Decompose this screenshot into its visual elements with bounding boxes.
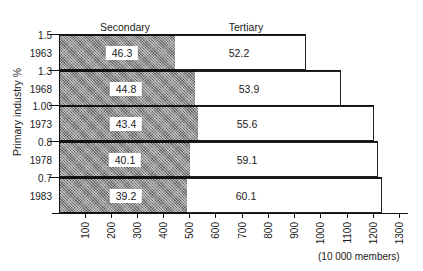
- tertiary-value-label: 53.9: [239, 83, 259, 95]
- row-boundary-line: [49, 34, 306, 35]
- secondary-segment: 40.1: [59, 142, 191, 177]
- x-tick-label: 1200: [368, 222, 379, 244]
- x-tick: [111, 213, 112, 218]
- year-label: 1968: [30, 84, 52, 95]
- x-tick-label: 1100: [342, 222, 353, 244]
- bar-row-1978: 40.1 59.1: [59, 142, 378, 177]
- x-tick: [163, 213, 164, 218]
- secondary-value-label: 43.4: [110, 117, 142, 131]
- x-tick-label: 200: [106, 222, 117, 239]
- x-tick-label: 500: [184, 222, 195, 239]
- x-tick-label: 800: [263, 222, 274, 239]
- secondary-value-label: 46.3: [106, 46, 138, 60]
- year-label: 1963: [30, 48, 52, 59]
- year-label: 1973: [30, 119, 52, 130]
- secondary-column-title: Secondary: [100, 21, 150, 33]
- tertiary-value-label: 59.1: [237, 154, 257, 166]
- row-boundary-line: [49, 105, 374, 106]
- year-label: 1983: [30, 191, 52, 202]
- secondary-value-label: 40.1: [109, 153, 141, 167]
- row-boundary-line: [49, 177, 382, 178]
- x-tick-label: 1300: [394, 222, 405, 244]
- x-tick: [399, 213, 400, 218]
- x-tick: [268, 213, 269, 218]
- tertiary-value-label: 60.1: [236, 190, 256, 202]
- primary-pct-label: 0.8: [38, 137, 52, 148]
- bar-row-1968: 44.8 53.9: [59, 71, 341, 106]
- bar-row-1983: 39.2 60.1: [59, 178, 382, 213]
- x-tick-label: 100: [80, 222, 91, 239]
- x-tick-label: 600: [210, 222, 221, 239]
- x-tick-label: 900: [289, 222, 300, 239]
- primary-pct-label: 1.5: [38, 30, 52, 41]
- secondary-segment: 39.2: [59, 178, 188, 213]
- bar-row-1973: 43.4 55.6: [59, 106, 374, 141]
- year-label: 1978: [30, 155, 52, 166]
- tertiary-value-label: 52.2: [229, 47, 249, 59]
- x-tick: [373, 213, 374, 218]
- primary-pct-label: 0.7: [38, 173, 52, 184]
- secondary-value-label: 39.2: [110, 189, 142, 203]
- tertiary-segment: 55.6: [198, 106, 374, 141]
- x-tick: [85, 213, 86, 218]
- x-tick: [242, 213, 243, 218]
- y-axis-label: Primary industry %: [11, 68, 23, 156]
- tertiary-column-title: Tertiary: [229, 21, 263, 33]
- bar-row-1963: 46.3 52.2: [59, 35, 306, 70]
- secondary-value-label: 44.8: [110, 82, 142, 96]
- tertiary-segment: 60.1: [187, 178, 382, 213]
- x-axis-line: [52, 213, 408, 214]
- x-tick: [320, 213, 321, 218]
- tertiary-segment: 59.1: [190, 142, 378, 177]
- tertiary-value-label: 55.6: [237, 118, 257, 130]
- primary-pct-label: 1.00: [33, 101, 52, 112]
- x-tick: [294, 213, 295, 218]
- x-tick: [215, 213, 216, 218]
- x-axis-unit-label: (10 000 members): [318, 251, 400, 262]
- x-tick-label: 700: [237, 222, 248, 239]
- row-boundary-line: [49, 70, 341, 71]
- row-boundary-line: [49, 141, 378, 142]
- x-tick: [189, 213, 190, 218]
- secondary-segment: 44.8: [59, 71, 196, 106]
- secondary-segment: 43.4: [59, 106, 199, 141]
- primary-pct-label: 1.3: [38, 66, 52, 77]
- x-tick-label: 300: [132, 222, 143, 239]
- tertiary-segment: 52.2: [175, 35, 306, 70]
- stacked-bar-chart: Secondary Tertiary Primary industry % 46…: [0, 0, 423, 271]
- x-tick-label: 400: [158, 222, 169, 239]
- x-tick: [347, 213, 348, 218]
- x-tick: [137, 213, 138, 218]
- tertiary-segment: 53.9: [195, 71, 341, 106]
- x-tick-label: 1000: [315, 222, 326, 244]
- secondary-segment: 46.3: [59, 35, 176, 70]
